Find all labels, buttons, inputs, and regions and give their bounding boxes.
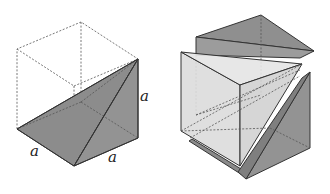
- edge-label-a-bottom-right: a: [108, 148, 117, 166]
- left-figure: a a a: [17, 22, 149, 166]
- right-figure: [181, 15, 314, 179]
- cube-decomposition-diagram: a a a: [0, 0, 330, 194]
- edge-label-a-bottom-left: a: [30, 142, 39, 160]
- edge-label-a-right: a: [140, 87, 149, 105]
